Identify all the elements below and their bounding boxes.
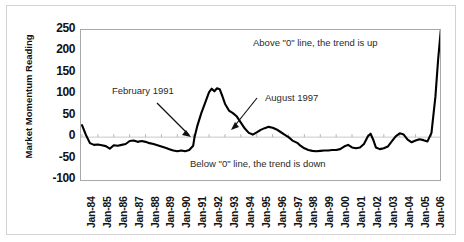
x-tick-jan-03: Jan-03: [387, 197, 399, 228]
annotation-arrow-feb-1991: [157, 103, 191, 137]
x-tick-jan-06: Jan-06: [434, 197, 446, 228]
x-tick-jan-86: Jan-86: [117, 197, 129, 228]
x-tick-jan-88: Jan-88: [149, 197, 161, 228]
x-tick-jan-91: Jan-91: [196, 197, 208, 228]
x-tick-jan-84: Jan-84: [85, 197, 97, 228]
y-tick-250: 250: [27, 22, 75, 34]
annotation-feb-1991: February 1991: [112, 85, 174, 96]
annotation-above-zero: Above "0" line, the trend is up: [253, 37, 378, 48]
x-tick-jan-04: Jan-04: [403, 197, 415, 228]
annotation-below-zero: Below "0" line, the trend is down: [190, 158, 326, 169]
x-tick-jan-93: Jan-93: [228, 197, 240, 228]
y-tick-0: 0: [27, 129, 75, 141]
x-tick-jan-94: Jan-94: [244, 197, 256, 228]
x-tick-jan-99: Jan-99: [323, 197, 335, 228]
x-tick-jan-02: Jan-02: [371, 197, 383, 228]
x-tick-jan-95: Jan-95: [260, 197, 272, 228]
plot-area: Above "0" line, the trend is up Below "0…: [80, 29, 441, 181]
y-tick-100: 100: [27, 86, 75, 98]
x-tick-jan-89: Jan-89: [164, 197, 176, 228]
x-tick-jan-05: Jan-05: [419, 197, 431, 228]
x-tick-jan-97: Jan-97: [292, 197, 304, 228]
x-tick-jan-90: Jan-90: [180, 197, 192, 228]
x-tick-jan-92: Jan-92: [212, 197, 224, 228]
y-tick-50: 50: [27, 108, 75, 120]
x-tick-jan-87: Jan-87: [133, 197, 145, 228]
x-tick-jan-00: Jan-00: [339, 197, 351, 228]
y-tick--100: -100: [27, 172, 75, 184]
x-tick-jan-96: Jan-96: [276, 197, 288, 228]
y-tick--50: -50: [27, 151, 75, 163]
y-tick-150: 150: [27, 65, 75, 77]
x-tick-jan-98: Jan-98: [307, 197, 319, 228]
x-tick-jan-85: Jan-85: [101, 197, 113, 228]
y-axis-title-wrap: Market Momentum Reading: [9, 29, 27, 181]
chart-frame: Market Momentum Reading 250200150100500-…: [6, 5, 456, 235]
annotation-aug-1997: August 1997: [265, 92, 318, 103]
y-tick-200: 200: [27, 43, 75, 55]
x-tick-jan-01: Jan-01: [355, 197, 367, 228]
